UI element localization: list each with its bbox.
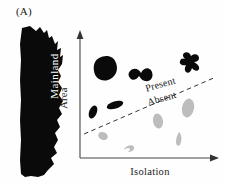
x-axis-label: Isolation (105, 166, 195, 177)
island-present-5 (87, 104, 99, 119)
island-absent-5 (124, 145, 134, 152)
island-absent-4 (176, 132, 181, 146)
island-absent-2 (152, 113, 164, 130)
x-axis-arrowhead (210, 155, 219, 162)
y-axis-label: Area (58, 68, 69, 128)
island-present-2 (129, 68, 153, 81)
island-present-1 (94, 56, 117, 81)
figure-canvas (0, 0, 225, 186)
island-present-4 (106, 99, 124, 111)
island-absent-1 (180, 97, 196, 118)
island-absent-3 (97, 130, 109, 141)
figure-panel-a: (A) Mainland Area Isolation Present Abse… (0, 0, 225, 186)
panel-label: (A) (16, 5, 32, 17)
y-axis-arrowhead (77, 30, 84, 39)
island-present-3 (180, 52, 199, 73)
